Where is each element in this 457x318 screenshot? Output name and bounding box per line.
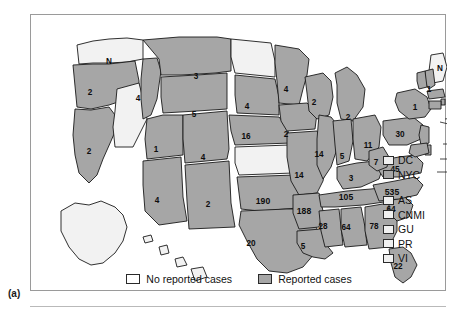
state-shape-ri xyxy=(441,99,445,105)
legend-entry-as: AS xyxy=(383,193,441,208)
state-shape-mn xyxy=(275,45,309,105)
state-value-wa: N xyxy=(106,58,112,66)
swatch-icon xyxy=(383,225,394,234)
state-value-pa: 30 xyxy=(395,131,404,139)
state-shape-ct xyxy=(429,101,441,109)
legend-item-label: Reported cases xyxy=(278,274,352,285)
state-value-al: 64 xyxy=(341,224,350,232)
state-shape-ak xyxy=(61,201,127,265)
state-value-mi: 2 xyxy=(346,114,351,122)
legend-entry-label: NYC xyxy=(398,170,420,181)
state-value-ny: 1 xyxy=(413,104,418,112)
map-stage: N224351442416190204214188521425113105286… xyxy=(31,15,447,292)
state-shape-sd xyxy=(235,75,279,115)
state-value-ne: 16 xyxy=(241,133,250,141)
state-shape-nd xyxy=(231,39,275,77)
map-legend: No reported casesReported cases xyxy=(31,274,447,285)
state-value-sd: 4 xyxy=(245,103,250,111)
legend-entry-vi: VI xyxy=(383,251,441,266)
state-shape-vt xyxy=(417,71,427,89)
swatch-icon xyxy=(383,210,394,219)
state-value-ga: 78 xyxy=(369,223,378,231)
swatch-icon xyxy=(383,196,394,205)
state-value-oh: 11 xyxy=(364,142,373,150)
state-shape-ca xyxy=(73,107,117,183)
state-shape-ks xyxy=(235,145,293,175)
swatch-icon xyxy=(383,239,394,248)
state-shape-hi xyxy=(143,235,153,243)
state-shape-hi xyxy=(175,257,187,267)
legend-item-label: No reported cases xyxy=(146,274,232,285)
state-value-tx: 20 xyxy=(246,240,255,248)
legend-entry-cnmi: CNMI xyxy=(383,208,441,223)
state-value-in: 5 xyxy=(340,153,345,161)
swatch-icon xyxy=(383,170,394,179)
state-shape-ut xyxy=(145,115,183,159)
state-value-id: 4 xyxy=(136,95,141,103)
side-legend: DCNYC ASCNMIGUPRVI xyxy=(383,153,441,266)
state-value-wi: 2 xyxy=(312,99,317,107)
state-shape-id xyxy=(141,58,161,119)
legend-entry-label: PR xyxy=(398,239,413,250)
legend-entry-dc: DC xyxy=(383,153,441,168)
legend-entry-label: CNMI xyxy=(398,210,425,221)
state-value-mn: 4 xyxy=(284,86,289,94)
state-value-ms: 28 xyxy=(318,223,327,231)
legend-entry-label: GU xyxy=(398,224,414,235)
state-value-nm: 2 xyxy=(206,201,211,209)
legend-item-reported: Reported cases xyxy=(258,274,352,285)
swatch-icon xyxy=(383,254,394,263)
state-value-tn: 105 xyxy=(339,193,353,202)
legend-entry-label: DC xyxy=(398,155,413,166)
state-value-ok: 190 xyxy=(256,197,270,206)
state-value-ut: 1 xyxy=(154,146,159,154)
state-value-mo: 14 xyxy=(294,172,303,180)
state-value-il: 14 xyxy=(314,151,323,159)
state-shape-az xyxy=(143,157,187,225)
state-shape-nm xyxy=(185,161,235,229)
state-value-ky: 3 xyxy=(349,175,354,183)
swatch-icon xyxy=(383,156,394,165)
state-shape-co xyxy=(183,111,229,163)
state-shape-hi xyxy=(159,245,169,255)
state-value-wv: 7 xyxy=(374,159,379,167)
legend-entry-gu: GU xyxy=(383,222,441,237)
leader-line-ri xyxy=(440,122,447,127)
swatch-icon xyxy=(126,274,140,284)
state-value-ca: 2 xyxy=(87,148,92,156)
state-value-ia: 2 xyxy=(284,131,289,139)
state-value-az: 4 xyxy=(155,197,160,205)
panel-label: (a) xyxy=(8,288,20,299)
swatch-icon xyxy=(258,274,272,284)
state-value-la: 5 xyxy=(301,243,306,251)
state-value-wy: 5 xyxy=(192,111,197,119)
map-frame: N224351442416190204214188521425113105286… xyxy=(30,14,446,291)
state-value-mt: 3 xyxy=(194,73,199,81)
leader-line-ma xyxy=(445,117,447,119)
legend-item-no-reported: No reported cases xyxy=(126,274,232,285)
state-shape-nj xyxy=(419,125,429,145)
figure-panel: (a) N22435144241619020421418852142511310… xyxy=(0,0,457,318)
state-value-co: 4 xyxy=(201,154,206,162)
state-value-or: 2 xyxy=(88,89,93,97)
legend-entry-pr: PR xyxy=(383,237,441,252)
state-value-nh: 1 xyxy=(427,86,432,94)
legend-entry-label: AS xyxy=(398,195,412,206)
legend-entry-label: VI xyxy=(398,253,408,264)
state-value-ar: 188 xyxy=(297,207,311,216)
legend-entry-nyc: NYC xyxy=(383,168,441,183)
state-value-me: N xyxy=(437,65,443,73)
footer-rule xyxy=(30,306,446,307)
